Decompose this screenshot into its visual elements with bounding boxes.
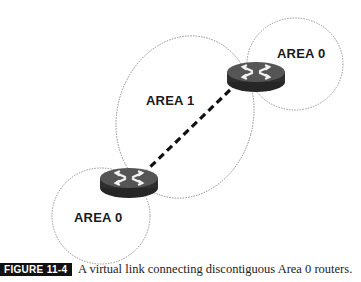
area1-label: AREA 1 <box>146 93 194 108</box>
router-right-icon <box>227 62 285 92</box>
ospf-diagram <box>0 0 361 282</box>
area0-right-label: AREA 0 <box>277 46 325 61</box>
area0-left-label: AREA 0 <box>74 210 122 225</box>
router-left-icon <box>100 168 158 198</box>
figure-caption: A virtual link connecting discontiguous … <box>78 262 352 277</box>
figure-number-badge: FIGURE 11-4 <box>0 263 72 276</box>
